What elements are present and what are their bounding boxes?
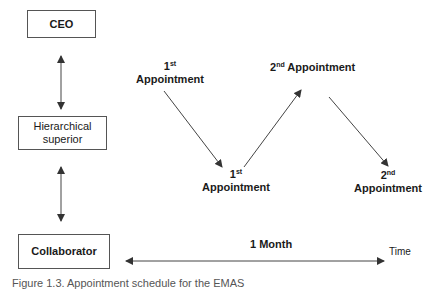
appointment-arrow-3 [329, 97, 388, 166]
collaborator-box: Collaborator [18, 234, 110, 269]
ceo-box: CEO [27, 10, 96, 38]
collaborator-label: Collaborator [31, 245, 96, 258]
duration-label: 1 Month [250, 238, 292, 250]
appointment-label-1-upper: 1st Appointment [120, 60, 220, 86]
appointment-arrow-1 [164, 91, 222, 167]
hierarchical-superior-box: Hierarchical superior [18, 116, 107, 150]
figure-caption: Figure 1.3. Appointment schedule for the… [12, 277, 244, 289]
appointment-label-2-upper: 2nd Appointment [270, 61, 380, 74]
ceo-label: CEO [50, 18, 74, 31]
appointment-arrow-2 [244, 90, 301, 167]
appointment-label-1-lower: 1st Appointment [186, 168, 286, 194]
time-axis-label: Time [389, 246, 411, 257]
superior-label-line2: superior [43, 133, 83, 146]
appointment-label-2-lower: 2nd Appointment [348, 169, 428, 195]
superior-label-line1: Hierarchical [33, 120, 91, 133]
